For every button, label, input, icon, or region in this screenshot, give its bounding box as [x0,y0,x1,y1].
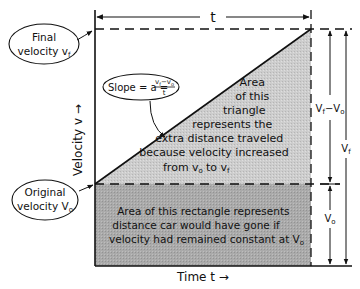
original-velocity-line2: velocity Vo [17,200,73,214]
original-velocity-line1: Original [24,186,65,198]
slope-denominator: t [163,89,166,97]
final-velocity-line1: Final [32,31,56,43]
time-dimension-label: t [210,9,216,25]
x-axis-label: Time t → [176,270,229,284]
y-axis-label: Velocity v → [71,104,85,176]
final-velocity-line2: velocity vf [17,45,71,59]
original-velocity-pointer-arrow [79,185,93,191]
final-velocity-pointer-arrow [77,31,92,40]
triangle-text-last-line: from voto vf [163,161,230,175]
vf-dimension-label: Vf [341,143,351,156]
vo-dimension-label: Vo [324,213,335,226]
delta-v-label: Vf−Vo [316,103,345,116]
rectangle-text-last-line: velocity had remained constant at Vo [109,233,304,247]
velocity-time-diagram: t Vf−Vo Vo Vf Final velocity vf Original… [0,0,360,289]
